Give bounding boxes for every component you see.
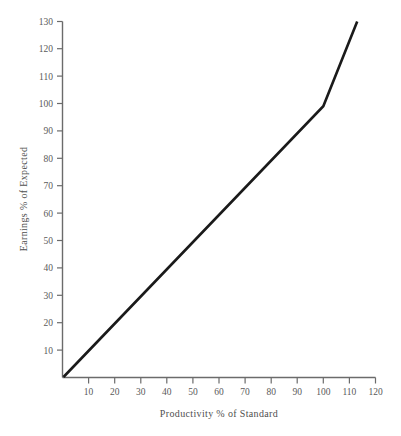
y-tick-label-20: 20 — [44, 318, 54, 328]
y-tick-label-120: 120 — [39, 44, 54, 54]
x-axis-tick-labels: 10 20 30 40 50 60 70 80 90 100 110 120 — [84, 387, 383, 397]
x-tick-label-70: 70 — [240, 387, 250, 397]
y-tick-label-10: 10 — [44, 346, 54, 356]
x-axis-ticks — [89, 378, 376, 384]
x-tick-label-120: 120 — [368, 387, 383, 397]
y-tick-label-110: 110 — [39, 72, 53, 82]
x-tick-label-40: 40 — [162, 387, 172, 397]
x-tick-label-10: 10 — [84, 387, 94, 397]
x-tick-label-50: 50 — [188, 387, 198, 397]
chart-plot-area: 10 20 30 40 50 60 70 80 90 100 110 120 1… — [0, 0, 401, 436]
y-axis-ticks — [57, 22, 63, 351]
x-tick-label-110: 110 — [342, 387, 356, 397]
y-tick-label-100: 100 — [39, 99, 54, 109]
x-tick-label-100: 100 — [316, 387, 331, 397]
y-tick-label-50: 50 — [44, 236, 54, 246]
earnings-data-line — [64, 22, 358, 378]
x-tick-label-60: 60 — [214, 387, 224, 397]
y-tick-label-40: 40 — [44, 263, 54, 273]
y-axis-tick-labels: 10 20 30 40 50 60 70 80 90 100 110 120 1… — [39, 17, 54, 356]
x-tick-label-90: 90 — [292, 387, 302, 397]
y-tick-label-80: 80 — [44, 154, 54, 164]
x-tick-label-80: 80 — [266, 387, 276, 397]
y-tick-label-130: 130 — [39, 17, 54, 27]
chart-figure: 10 20 30 40 50 60 70 80 90 100 110 120 1… — [0, 0, 401, 436]
x-tick-label-30: 30 — [136, 387, 146, 397]
y-tick-label-90: 90 — [44, 126, 54, 136]
x-tick-label-20: 20 — [110, 387, 120, 397]
y-tick-label-70: 70 — [44, 181, 54, 191]
x-axis-title: Productivity % of Standard — [160, 408, 278, 419]
y-tick-label-30: 30 — [44, 291, 54, 301]
y-axis-title: Earnings % of Expected — [18, 147, 29, 252]
y-tick-label-60: 60 — [44, 209, 54, 219]
